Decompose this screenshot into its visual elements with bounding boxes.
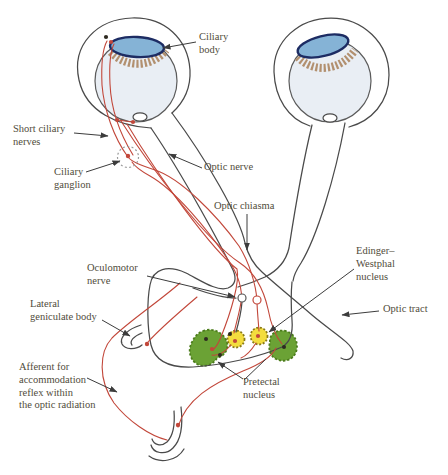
oculomotor-nerve-arrow — [147, 276, 235, 297]
optic-nerve-arrow — [169, 154, 202, 168]
oculomotor-root-left — [236, 302, 242, 332]
lenses — [110, 30, 351, 62]
short-ciliary-nerves-arrow — [74, 133, 108, 136]
pretectal-ew-link-right — [241, 343, 256, 358]
edinger-westphal-nuclei — [228, 328, 268, 348]
accommodation-afferent-loop — [102, 283, 180, 440]
label-ciliary-body: Ciliary body — [199, 31, 228, 57]
synapse-rings — [238, 294, 261, 304]
label-ciliary-ganglion: Ciliary ganglion — [54, 166, 91, 192]
ciliary-ganglion-arrow — [86, 161, 120, 172]
label-lateral-geniculate-body: Lateral geniculate body — [30, 298, 97, 324]
left-optic-nerve-to-optic-tract — [172, 113, 353, 360]
ciliary-body-arrow — [163, 42, 196, 48]
optic-disc-left — [133, 113, 147, 121]
visual-cortex-hook-outer — [151, 407, 182, 453]
label-optic-nerve: Optic nerve — [204, 161, 253, 174]
right-optic-nerve-lateral-edge — [293, 123, 345, 281]
oculomotor-synapse-ring-left — [238, 294, 246, 302]
oculomotor-synapse-ring-right — [253, 296, 261, 304]
label-pretectal-nucleus: Pretectal nucleus — [243, 376, 280, 402]
lateral-geniculate-body-inner — [131, 333, 142, 345]
label-short-ciliary-nerves: Short ciliary nerves — [13, 123, 65, 149]
branch-to-lateral-geniculate — [148, 297, 197, 342]
label-afferent-accommodation: Afferent for accommodation reflex within… — [19, 361, 95, 412]
afferent-fiber-uncrossed — [127, 124, 238, 350]
pupillary-reflex-diagram: Ciliary body Short ciliary nerves Ciliar… — [0, 0, 448, 475]
optic-disc-right — [323, 114, 337, 122]
edinger-westphal-arrow — [269, 269, 354, 332]
label-optic-chiasma: Optic chiasma — [214, 200, 274, 213]
label-edinger-westphal-nucleus: Edinger– Westphal nucleus — [356, 245, 395, 283]
oculomotor-exit-line — [193, 288, 236, 298]
label-oculomotor-nerve: Oculomotor nerve — [87, 262, 138, 288]
label-optic-tract: Optic tract — [383, 303, 428, 316]
visual-cortex-hook-inner — [152, 411, 174, 445]
optic-tract-arrow — [342, 311, 379, 315]
